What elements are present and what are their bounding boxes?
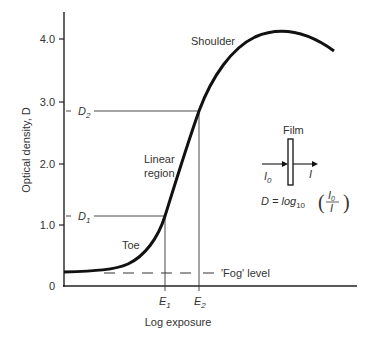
d1-label: D1 <box>78 210 90 225</box>
formula-lhs: D = log10 <box>261 195 306 210</box>
characteristic-curve-diagram: 4.0 3.0 2.0 1.0 0 Optical density, D Log… <box>0 0 373 340</box>
shoulder-label: Shoulder <box>191 35 235 47</box>
film-strip <box>288 139 293 185</box>
y-tick-1: 1.0 <box>40 219 55 231</box>
formula-numerator: I0 <box>328 189 335 202</box>
x-axis-label: Log exposure <box>145 316 212 328</box>
formula-paren-right: ) <box>343 191 350 214</box>
y-tick-2: 2.0 <box>40 158 55 170</box>
film-label: Film <box>283 124 304 136</box>
transmitted-arrow-head <box>312 161 318 167</box>
formula-paren-left: ( <box>318 191 325 214</box>
incident-arrow-head <box>282 161 288 167</box>
y-ticks <box>59 39 64 225</box>
linear-region-label-1: Linear <box>144 153 175 165</box>
y-tick-0: 0 <box>49 280 55 292</box>
fog-level-label: 'Fog' level <box>221 267 270 279</box>
toe-label: Toe <box>122 239 140 251</box>
film-inset: Film I0 I D = log10 ( I0 I ) <box>261 124 350 214</box>
y-axis-label: Optical density, D <box>20 107 32 192</box>
y-tick-3: 3.0 <box>40 96 55 108</box>
e1-label: E1 <box>159 295 171 310</box>
d2-label: D2 <box>78 105 91 120</box>
e2-label: E2 <box>194 295 206 310</box>
linear-region-label-2: region <box>144 167 175 179</box>
i-label: I <box>309 168 312 180</box>
y-tick-4: 4.0 <box>40 33 55 45</box>
i0-label: I0 <box>264 170 272 185</box>
formula-denominator: I <box>330 202 333 214</box>
